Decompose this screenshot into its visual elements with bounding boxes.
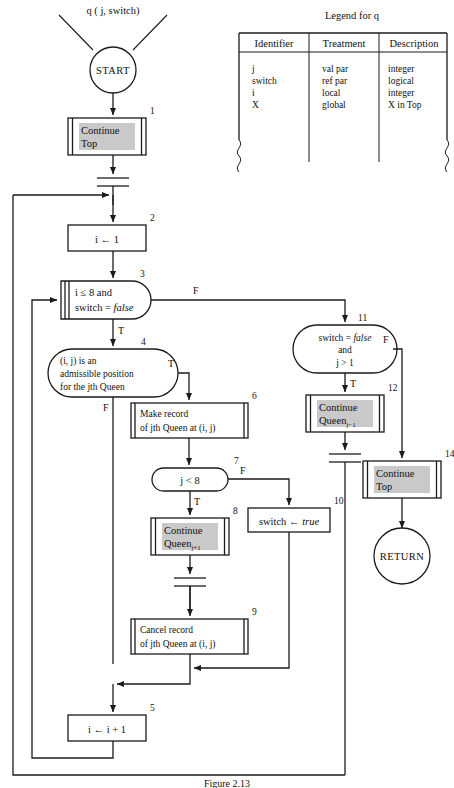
label-4-false: F [103,402,109,413]
node-1-line-1: Top [81,138,97,149]
node-10-number: 10 [334,496,344,506]
legend-header-1: Treatment [323,38,366,49]
node-7-number: 7 [234,456,239,466]
node-11-line-2: j > 1 [335,358,354,368]
legend-squiggle-left [237,140,240,172]
node-3-line-1: switch = false [75,302,134,313]
node-9-number: 9 [252,607,257,617]
node-12-line-0: Continue [319,402,358,413]
edge-7-false-to-10 [228,479,289,505]
return-bar-12 [329,454,361,462]
node-11-number: 11 [358,313,367,323]
node-11-line-0: switch = false [319,333,372,343]
node-8-number: 8 [233,506,238,516]
call-entry-lines [59,15,167,50]
legend-cell-identifier: j [251,64,255,74]
node-2: i ← 1 2 [68,213,155,251]
node-14-line-1: Top [376,481,392,492]
node-6: Make record of jth Queen at (i, j) 6 [131,391,257,438]
figure-caption: Figure 2.13 [204,778,250,788]
legend-header-2: Description [390,38,440,49]
label-11-false: F [383,334,389,345]
legend-cell-identifier: i [252,88,255,98]
node-1-line-0: Continue [81,125,120,136]
node-3-line-0: i ≤ 8 and [75,287,113,298]
node-8-subscript: j+1 [190,544,201,552]
node-6-line-1: of jth Queen at (i, j) [140,423,215,434]
node-10-line-0: switch ← true [259,516,319,527]
legend-squiggle-right [445,140,448,172]
node-12-subscript: j−1 [345,421,356,429]
start-label: START [96,65,130,76]
node-8: Continue Queenj+1 8 [151,506,238,555]
node-5-line-0: i ← i + 1 [88,724,126,735]
node-6-number: 6 [252,391,257,401]
edge-11-false-to-14 [393,349,402,458]
node-14: Continue Top 14 [363,449,454,498]
node-3: i ≤ 8 and switch = false 3 [61,269,151,319]
return-terminal: RETURN [374,528,430,584]
legend-row: X global X in Top [252,100,422,110]
legend-cell-treatment: local [322,88,341,98]
node-12: Continue Queenj−1 12 [306,383,398,432]
legend-cell-treatment: global [322,100,346,110]
node-4-line-2: for the jth Queen [60,382,125,392]
node-9: Cancel record of jth Queen at (i, j) 9 [131,607,257,654]
label-3-false: F [193,285,199,296]
node-5: i ← i + 1 5 [68,703,155,741]
node-10: switch ← true 10 [248,496,344,532]
node-4-line-1: admissible position [60,369,134,379]
node-2-number: 2 [150,213,155,223]
node-9-line-0: Cancel record [140,625,193,635]
legend-cell-treatment: ref par [322,76,348,86]
legend-header-0: Identifier [254,38,294,49]
label-7-true: T [194,496,200,507]
legend-cell-identifier: X [252,100,259,110]
legend-cell-description: integer [388,64,415,74]
label-7-false: F [240,465,246,476]
node-4-line-0: (i, j) is an [60,356,97,367]
label-4-true: T [168,358,174,369]
figure-canvas: q ( j, switch) START Continue Top 1 i ← … [0,0,454,788]
edge-9-merge-left [117,654,190,684]
legend-row: j val par integer [251,64,415,74]
node-3-number: 3 [140,269,145,279]
node-14-number: 14 [445,449,454,459]
legend-cell-description: logical [388,76,414,86]
legend-table: Legend for q Identifier Treatment Descri… [237,10,448,172]
node-8-line-0: Continue [164,525,203,536]
legend-row: i local integer [252,88,415,98]
edge-4-true-to-6 [178,373,189,400]
node-9-line-1: of jth Queen at (i, j) [140,639,215,650]
return-label: RETURN [380,551,424,562]
flowchart-svg: q ( j, switch) START Continue Top 1 i ← … [0,0,454,788]
edge-3-false-to-11 [151,300,345,322]
node-7-line-0: j < 8 [179,475,199,486]
legend-cell-treatment: val par [322,64,349,74]
legend-cell-description: integer [388,88,415,98]
label-3-true: T [118,325,124,336]
node-4-number: 4 [141,337,146,347]
node-14-line-0: Continue [376,468,415,479]
legend-title: Legend for q [325,10,380,21]
node-7: j < 8 7 [152,456,239,491]
node-1: Continue Top 1 [68,106,155,155]
node-6-line-0: Make record [140,409,189,419]
node-5-number: 5 [150,703,155,713]
legend-cell-description: X in Top [388,100,422,110]
legend-cell-identifier: switch [252,76,277,86]
node-11-line-1: and [338,345,352,355]
node-12-number: 12 [388,383,398,393]
call-label: q ( j, switch) [86,5,140,17]
start-terminal: START [90,47,136,93]
legend-row: switch ref par logical [252,76,414,86]
label-11-true: T [350,378,356,389]
node-1-number: 1 [150,106,155,116]
node-2-line-0: i ← 1 [95,234,119,245]
